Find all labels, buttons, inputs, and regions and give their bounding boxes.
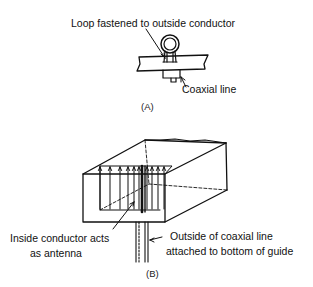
inside-conductor-label-line2: as antenna xyxy=(30,247,82,259)
figure-a-caption: (A) xyxy=(141,101,154,112)
coaxial-line-label: Coaxial line xyxy=(182,83,236,95)
figure-b-caption: (B) xyxy=(146,268,159,279)
loop-label: Loop fastened to outside conductor xyxy=(71,17,235,29)
outside-coax-label-line2: attached to bottom of guide xyxy=(166,245,293,257)
outside-coax-label-line1: Outside of coaxial line xyxy=(170,230,273,242)
figure-a-drawing xyxy=(137,29,208,87)
inside-conductor-label-line1: Inside conductor acts xyxy=(10,232,109,244)
